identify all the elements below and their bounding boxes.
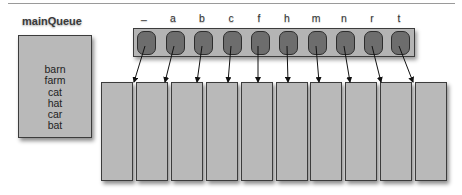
arrow-icon	[134, 46, 145, 82]
arrow-icon	[197, 46, 202, 82]
arrow-icon	[165, 46, 174, 82]
pointer-arrows	[0, 0, 462, 195]
arrow-icon	[372, 46, 381, 82]
arrow-icon	[399, 46, 413, 82]
arrow-icon	[316, 46, 319, 82]
arrow-icon	[344, 46, 350, 82]
arrow-icon	[287, 46, 288, 82]
arrow-icon	[228, 46, 231, 82]
